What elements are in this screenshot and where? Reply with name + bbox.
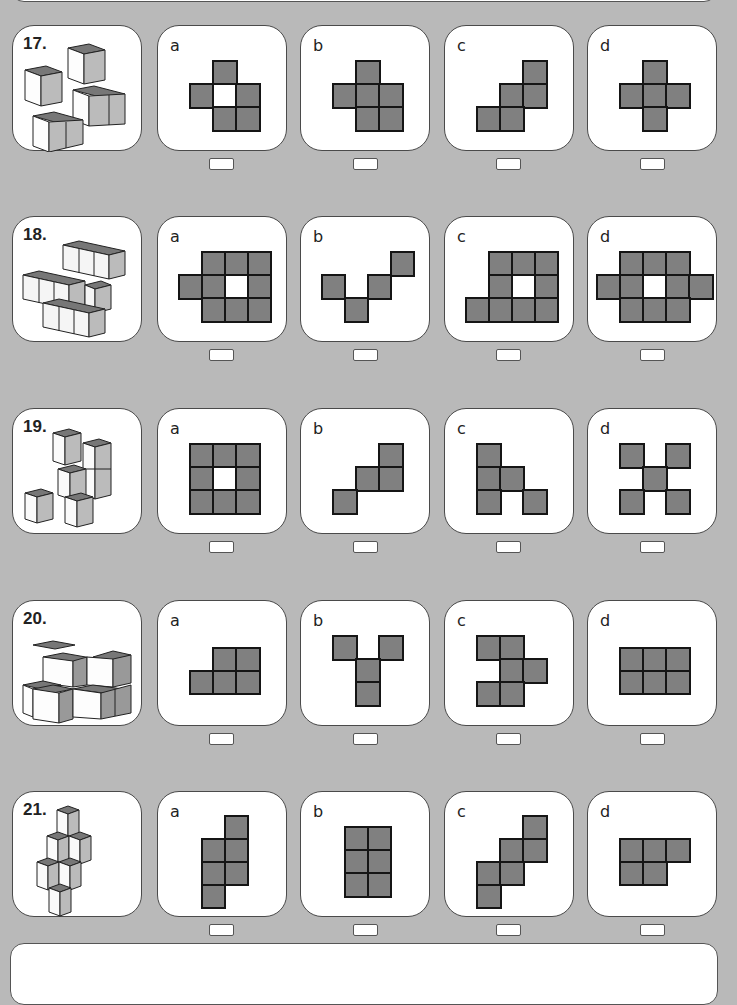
option-card-c[interactable]: c — [444, 600, 574, 726]
net-grid — [621, 648, 690, 694]
net-square — [642, 670, 668, 696]
net-square — [378, 83, 404, 109]
net-square — [596, 274, 622, 300]
answer-checkbox-d[interactable] — [640, 541, 665, 553]
net-square — [642, 647, 668, 673]
answer-checkbox-c[interactable] — [496, 349, 521, 361]
net-square — [665, 443, 691, 469]
option-card-b[interactable]: b — [300, 408, 430, 534]
net-square — [390, 251, 416, 277]
answer-checkbox-a[interactable] — [209, 924, 234, 936]
net-empty — [667, 108, 690, 131]
net-square — [619, 670, 645, 696]
option-card-b[interactable]: b — [300, 216, 430, 342]
option-letter: a — [170, 419, 180, 438]
net-square — [642, 861, 668, 887]
net-square — [476, 466, 502, 492]
net-square — [332, 489, 358, 515]
answer-checkbox-b[interactable] — [353, 349, 378, 361]
net-square — [499, 658, 525, 684]
net-square — [476, 884, 502, 910]
answer-checkbox-c[interactable] — [496, 158, 521, 170]
net-square — [247, 251, 273, 277]
net-empty — [179, 253, 202, 276]
option-card-d[interactable]: d — [587, 791, 717, 917]
option-card-c[interactable]: c — [444, 408, 574, 534]
net-square — [499, 861, 525, 887]
answer-checkbox-d[interactable] — [640, 158, 665, 170]
answer-checkbox-b[interactable] — [353, 733, 378, 745]
net-square — [235, 647, 261, 673]
net-square — [212, 443, 238, 469]
net-square — [499, 838, 525, 864]
net-square — [235, 670, 261, 696]
net-square — [665, 83, 691, 109]
answer-checkbox-b[interactable] — [353, 924, 378, 936]
net-square — [344, 826, 370, 852]
answer-checkbox-a[interactable] — [209, 158, 234, 170]
option-card-a[interactable]: a — [157, 25, 287, 151]
answer-checkbox-d[interactable] — [640, 349, 665, 361]
answer-checkbox-c[interactable] — [496, 733, 521, 745]
net-square — [189, 83, 215, 109]
answer-checkbox-d[interactable] — [640, 924, 665, 936]
top-panel — [10, 0, 718, 2]
net-square — [247, 274, 273, 300]
net-grid — [191, 62, 260, 131]
net-empty — [345, 276, 368, 299]
option-card-c[interactable]: c — [444, 25, 574, 151]
net-square — [499, 635, 525, 661]
net-square — [344, 849, 370, 875]
answer-checkbox-a[interactable] — [209, 733, 234, 745]
net-empty — [667, 468, 690, 491]
option-card-c[interactable]: c — [444, 216, 574, 342]
question-row-18: 18. a b — [0, 216, 737, 391]
option-card-a[interactable]: a — [157, 600, 287, 726]
net-empty — [334, 660, 357, 683]
answer-checkbox-a[interactable] — [209, 541, 234, 553]
net-square — [367, 274, 393, 300]
question-row-21: 21. — [0, 791, 737, 966]
net-square — [665, 297, 691, 323]
net-grid — [179, 253, 271, 322]
net-square — [488, 251, 514, 277]
cube-illustration — [13, 217, 143, 343]
net-square — [534, 251, 560, 277]
net-square — [235, 466, 261, 492]
option-card-a[interactable]: a — [157, 791, 287, 917]
option-card-a[interactable]: a — [157, 408, 287, 534]
net-empty — [334, 468, 357, 491]
net-square — [465, 297, 491, 323]
answer-checkbox-b[interactable] — [353, 541, 378, 553]
net-empty — [357, 445, 380, 468]
option-card-b[interactable]: b — [300, 25, 430, 151]
option-card-b[interactable]: b — [300, 791, 430, 917]
answer-checkbox-c[interactable] — [496, 541, 521, 553]
answer-checkbox-c[interactable] — [496, 924, 521, 936]
option-card-d[interactable]: d — [587, 216, 717, 342]
question-card: 18. — [12, 216, 142, 342]
option-card-a[interactable]: a — [157, 216, 287, 342]
net-square — [235, 83, 261, 109]
answer-checkbox-a[interactable] — [209, 349, 234, 361]
answer-checkbox-b[interactable] — [353, 158, 378, 170]
net-grid — [478, 62, 547, 131]
option-letter: c — [457, 611, 466, 630]
answer-checkbox-d[interactable] — [640, 733, 665, 745]
option-card-d[interactable]: d — [587, 600, 717, 726]
option-card-d[interactable]: d — [587, 408, 717, 534]
net-empty — [380, 62, 403, 85]
option-card-c[interactable]: c — [444, 791, 574, 917]
net-empty — [524, 445, 547, 468]
net-square — [344, 872, 370, 898]
net-square — [201, 838, 227, 864]
net-grid — [478, 637, 547, 706]
option-card-b[interactable]: b — [300, 600, 430, 726]
net-square — [224, 861, 250, 887]
option-card-d[interactable]: d — [587, 25, 717, 151]
cube-illustration — [13, 792, 143, 918]
net-square — [355, 466, 381, 492]
net-empty — [524, 108, 547, 131]
question-row-17: 17. — [0, 25, 737, 200]
net-empty — [334, 445, 357, 468]
